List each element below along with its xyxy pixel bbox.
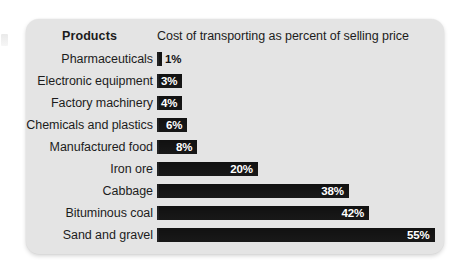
column-header-products: Products: [26, 27, 153, 46]
bar: 3%: [157, 74, 182, 88]
horizontal-bar-chart: Products Cost of transporting as percent…: [26, 19, 444, 254]
bar-value-label: 4%: [161, 96, 182, 110]
row-bar-area: 3%: [157, 70, 440, 92]
bar: 4%: [157, 96, 182, 110]
bar: 42%: [157, 206, 369, 220]
bar: 20%: [157, 162, 258, 176]
bar-value-label: 6%: [166, 118, 187, 132]
bar-value-label: 38%: [321, 184, 349, 198]
chart-row: Iron ore20%: [26, 158, 444, 180]
row-bar-area: 6%: [157, 114, 440, 136]
bar-value-label: 3%: [161, 74, 182, 88]
chart-row: Bituminous coal42%: [26, 202, 444, 224]
row-bar-area: 8%: [157, 136, 440, 158]
row-category-label: Sand and gravel: [26, 224, 153, 246]
bar-value-label: 8%: [176, 140, 197, 154]
row-bar-area: 1%: [157, 48, 440, 70]
bar-value-label: 20%: [230, 162, 258, 176]
row-bar-area: 38%: [157, 180, 440, 202]
bar: 6%: [157, 118, 187, 132]
column-header-measure: Cost of transporting as percent of selli…: [157, 27, 409, 46]
row-category-label: Iron ore: [26, 158, 153, 180]
bar: 38%: [157, 184, 349, 198]
row-bar-area: 4%: [157, 92, 440, 114]
chart-row: Pharmaceuticals1%: [26, 48, 444, 70]
bar-value-label: 42%: [341, 206, 369, 220]
row-category-label: Cabbage: [26, 180, 153, 202]
bar: 8%: [157, 140, 197, 154]
bar-value-label: 1%: [165, 52, 181, 66]
chart-row: Sand and gravel55%: [26, 224, 444, 246]
row-bar-area: 55%: [157, 224, 440, 246]
bar-value-label: 55%: [407, 228, 435, 242]
chart-row: Manufactured food8%: [26, 136, 444, 158]
bar: 55%: [157, 228, 435, 242]
chart-row: Factory machinery4%: [26, 92, 444, 114]
row-bar-area: 42%: [157, 202, 440, 224]
row-category-label: Chemicals and plastics: [26, 114, 153, 136]
row-category-label: Bituminous coal: [26, 202, 153, 224]
row-category-label: Pharmaceuticals: [26, 48, 153, 70]
chart-row: Electronic equipment3%: [26, 70, 444, 92]
row-category-label: Factory machinery: [26, 92, 153, 114]
chart-panel: Products Cost of transporting as percent…: [26, 19, 444, 254]
row-bar-area: 20%: [157, 158, 440, 180]
chart-row: Cabbage38%: [26, 180, 444, 202]
row-category-label: Electronic equipment: [26, 70, 153, 92]
bar: [157, 52, 162, 66]
chart-header-row: Products Cost of transporting as percent…: [26, 27, 444, 46]
chart-rows: Pharmaceuticals1%Electronic equipment3%F…: [26, 48, 444, 246]
chart-row: Chemicals and plastics6%: [26, 114, 444, 136]
row-category-label: Manufactured food: [26, 136, 153, 158]
page-edge-artifact: [1, 34, 8, 46]
